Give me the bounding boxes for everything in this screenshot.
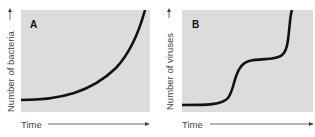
panel-a-exponential-curve	[21, 10, 150, 112]
panel-a-x-axis-label: Time	[21, 119, 42, 130]
panel-a-y-axis-label: Number of bacteria	[5, 31, 16, 112]
panel-a-x-axis-arrow-icon	[48, 120, 150, 128]
panel-b-stepwise-curve	[182, 10, 313, 112]
panel-a-letter: A	[30, 19, 37, 30]
panel-b-y-axis-label: Number of viruses	[164, 33, 175, 110]
panel-b-x-axis-arrow-icon	[210, 120, 314, 128]
panel-b-x-axis-label: Time	[182, 119, 203, 130]
panel-b-y-axis-arrow-icon	[165, 8, 173, 18]
panel-a-plot-area: A	[21, 10, 150, 112]
panel-b-letter: B	[192, 19, 199, 30]
panel-b-plot-area: B	[182, 10, 313, 112]
panel-a-y-axis-arrow-icon	[6, 8, 14, 20]
